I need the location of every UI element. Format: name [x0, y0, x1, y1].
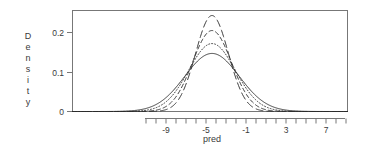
x-tick-label-7: 7: [324, 125, 329, 135]
y-axis-tick-labels: 0.2 0.1 0: [52, 28, 64, 117]
y-tick-label-0: 0: [59, 107, 64, 117]
curve-3-dashed: [73, 31, 348, 112]
density-chart: Density 0.2 0.1 0 -9-5-137 pred: [0, 0, 365, 159]
x-axis-ticks: [146, 119, 346, 124]
x-tick-label--1: -1: [242, 125, 250, 135]
y-axis-ticks: [67, 33, 73, 112]
y-tick-label-0.1: 0.1: [52, 68, 64, 78]
plot-area: 0.2 0.1 0 -9-5-137 pred: [0, 0, 365, 159]
x-tick-label-3: 3: [284, 125, 289, 135]
x-axis-tick-labels: -9-5-137: [162, 125, 328, 135]
density-curves: [73, 16, 348, 112]
plot-frame: [73, 11, 348, 112]
curve-1-solid: [73, 53, 348, 111]
x-tick-label--9: -9: [162, 125, 170, 135]
curve-4-longdash: [73, 16, 348, 112]
y-tick-label-0.2: 0.2: [52, 28, 64, 38]
x-axis-label: pred: [203, 134, 221, 144]
